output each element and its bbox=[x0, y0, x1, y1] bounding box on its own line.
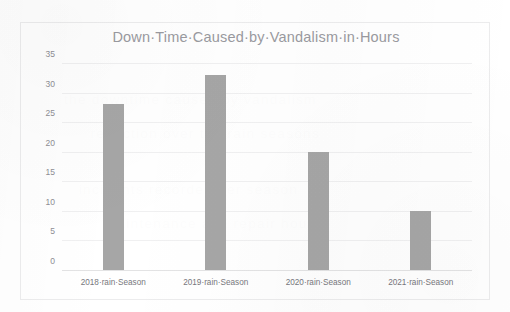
bar bbox=[205, 75, 226, 270]
cut-off-text-line: g e ti y s p g p bbox=[0, 0, 510, 7]
y-axis-tick-label: 35 bbox=[46, 49, 55, 59]
y-axis-tick-label: 10 bbox=[46, 197, 55, 207]
x-axis-tick-label: 2018·rain·Season bbox=[62, 278, 165, 287]
y-axis-tick-label: 5 bbox=[50, 226, 55, 236]
bar bbox=[103, 104, 124, 270]
y-axis-tick-label: 15 bbox=[46, 167, 55, 177]
y-axis-tick-label: 25 bbox=[46, 108, 55, 118]
bar-slot bbox=[267, 63, 370, 270]
y-axis-tick-label: 20 bbox=[46, 138, 55, 148]
y-axis-tick-label: 30 bbox=[46, 79, 55, 89]
chart-container: Down·Time·Caused·by·Vandalism·in·Hours 0… bbox=[20, 22, 490, 300]
x-axis-tick-label: 2021·rain·Season bbox=[370, 278, 473, 287]
chart-title: Down·Time·Caused·by·Vandalism·in·Hours bbox=[21, 29, 491, 45]
x-axis-line bbox=[62, 270, 472, 271]
bar-slot bbox=[62, 63, 165, 270]
plot-area: 05101520253035 bbox=[62, 63, 472, 271]
bar bbox=[308, 152, 329, 270]
x-axis-tick-labels: 2018·rain·Season2019·rain·Season2020·rai… bbox=[62, 278, 472, 287]
y-axis-tick-label: 0 bbox=[50, 256, 55, 266]
bar bbox=[410, 211, 431, 270]
x-axis-tick-label: 2019·rain·Season bbox=[165, 278, 268, 287]
bar-slot bbox=[165, 63, 268, 270]
x-axis-tick-label: 2020·rain·Season bbox=[267, 278, 370, 287]
bar-series bbox=[62, 63, 472, 270]
bar-slot bbox=[370, 63, 473, 270]
